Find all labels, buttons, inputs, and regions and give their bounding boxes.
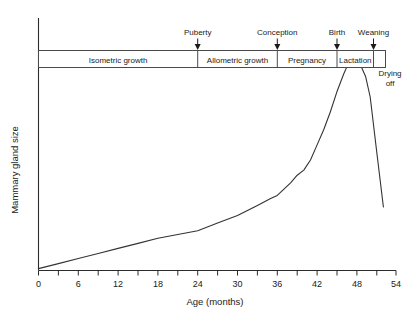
stage-label-lactation: Lactation <box>339 56 371 65</box>
y-axis-title: Mammary gland size <box>9 126 20 214</box>
x-axis-tick-labels: 0 6 12 18 24 30 36 42 48 54 <box>36 279 401 289</box>
event-markers: Puberty Conception Birth Weaning <box>184 28 389 50</box>
x-tick-label: 12 <box>113 279 123 289</box>
stage-label-isometric-growth: Isometric growth <box>89 56 148 65</box>
event-label-conception: Conception <box>257 28 297 37</box>
x-tick-label: 18 <box>153 279 163 289</box>
event-marker-birth: Birth <box>329 28 345 50</box>
annotation-drying-off-line2: off <box>386 79 396 88</box>
arrow-down-icon <box>274 44 280 50</box>
x-tick-label: 48 <box>352 279 362 289</box>
x-axis-title: Age (months) <box>186 296 243 307</box>
developmental-stage-bar: Isometric growth Allometric growth Pregn… <box>39 51 386 68</box>
x-axis-ticks <box>39 271 397 276</box>
mammary-gland-growth-chart: 0 6 12 18 24 30 36 42 48 54 Age (months)… <box>0 0 412 315</box>
chart-figure: 0 6 12 18 24 30 36 42 48 54 Age (months)… <box>0 0 412 315</box>
annotation-drying-off: Drying off <box>378 69 401 88</box>
event-label-birth: Birth <box>329 28 345 37</box>
arrow-down-icon <box>371 44 377 50</box>
x-tick-label: 36 <box>272 279 282 289</box>
x-tick-label: 54 <box>391 279 401 289</box>
x-tick-label: 6 <box>76 279 81 289</box>
x-tick-label: 42 <box>312 279 322 289</box>
event-label-puberty: Puberty <box>184 28 212 37</box>
mammary-gland-size-curve <box>39 62 384 269</box>
x-tick-label: 24 <box>193 279 203 289</box>
stage-label-allometric-growth: Allometric growth <box>207 56 268 65</box>
event-marker-weaning: Weaning <box>358 28 389 50</box>
stage-label-pregnancy: Pregnancy <box>288 56 326 65</box>
event-label-weaning: Weaning <box>358 28 389 37</box>
arrow-down-icon <box>195 44 201 50</box>
event-marker-puberty: Puberty <box>184 28 212 50</box>
x-tick-label: 30 <box>232 279 242 289</box>
annotation-drying-off-line1: Drying <box>378 69 401 78</box>
arrow-down-icon <box>334 44 340 50</box>
event-marker-conception: Conception <box>257 28 297 50</box>
x-tick-label: 0 <box>36 279 41 289</box>
